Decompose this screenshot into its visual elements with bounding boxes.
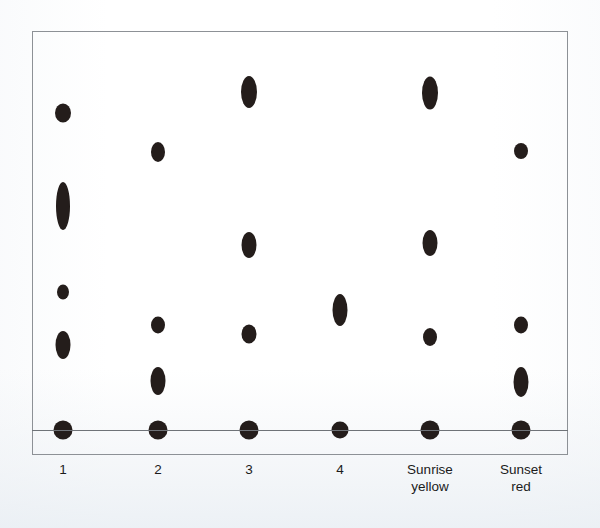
x-axis-tick-labels: 1234Sunrise yellowSunset red [32, 462, 568, 520]
data-point-marker [56, 182, 70, 230]
plot-frame-border [32, 31, 568, 455]
data-point-marker [151, 142, 165, 162]
baseline-axis-line [32, 430, 568, 431]
x-tick-label-3: 3 [245, 462, 253, 479]
data-point-marker [56, 331, 71, 359]
x-tick-label-sunrise-yellow: Sunrise yellow [407, 462, 453, 495]
dot-plot-figure: 1234Sunrise yellowSunset red [0, 0, 600, 528]
data-point-marker [151, 317, 165, 334]
data-point-marker [514, 367, 529, 397]
x-tick-label-4: 4 [336, 462, 344, 479]
data-point-marker [514, 143, 528, 159]
data-point-marker [423, 230, 438, 256]
data-point-marker [151, 367, 166, 395]
data-point-marker [242, 232, 257, 258]
x-tick-label-1: 1 [59, 462, 67, 479]
data-point-marker [241, 76, 257, 108]
data-point-marker [514, 317, 528, 334]
x-tick-label-sunset-red: Sunset red [500, 462, 542, 495]
data-point-marker [423, 328, 437, 346]
data-point-marker [57, 285, 69, 300]
data-point-marker [333, 294, 348, 326]
data-point-marker [422, 77, 438, 110]
data-point-marker [55, 104, 71, 123]
x-tick-label-2: 2 [154, 462, 162, 479]
data-point-marker [242, 325, 257, 344]
